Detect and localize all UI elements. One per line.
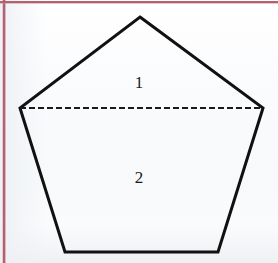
region-label-2: 2 xyxy=(135,169,144,186)
figure-canvas: 1 2 xyxy=(0,0,278,263)
pentagon-outline xyxy=(20,17,263,252)
pentagon-diagram xyxy=(0,0,278,263)
region-label-1: 1 xyxy=(135,74,144,91)
